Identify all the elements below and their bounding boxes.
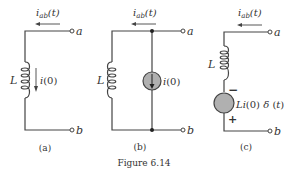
panel-b: iab(t) L i(0) a b (b): [96, 7, 194, 152]
figure-caption: Figure 6.14: [117, 158, 170, 168]
terminal-label-b: b: [76, 124, 83, 137]
wire-top-c: [224, 32, 268, 46]
initial-current-label-a: ii(0)(0): [40, 75, 57, 86]
node-dot-top: [150, 29, 154, 33]
current-label-b: iab(t): [133, 7, 157, 20]
terminal-label-a: a: [274, 26, 281, 39]
wire-bottom-b: [112, 98, 181, 130]
current-arrow-icon: [131, 22, 156, 26]
panel-label-b: (b): [134, 142, 147, 152]
terminal-label-b: b: [187, 124, 194, 137]
current-label-a: iab(t): [36, 7, 60, 20]
inductor-label-a: L: [9, 74, 17, 87]
terminal-a-icon: [181, 29, 185, 33]
wire-top-a: [25, 31, 70, 62]
panel-label-c: (c): [240, 142, 252, 152]
current-arrow-icon: [237, 23, 262, 27]
current-label-c: iab(t): [238, 7, 262, 20]
terminal-label-a: a: [76, 25, 83, 38]
node-dot-bottom: [150, 128, 154, 132]
terminal-b-icon: [70, 128, 74, 132]
wire-bottom-a: [25, 98, 70, 130]
source-label-b: i(0): [163, 76, 180, 87]
terminal-a-icon: [70, 29, 74, 33]
down-arrow-icon: [34, 68, 38, 92]
current-arrow-icon: [35, 22, 60, 26]
terminal-label-a: a: [187, 25, 194, 38]
inductor-label-b: L: [96, 74, 104, 87]
source-label-c: Li(0) δ (t): [235, 99, 284, 110]
panel-c: iab(t) L − Li(0) δ (t) + a b (c): [207, 7, 284, 152]
terminal-b-icon: [268, 129, 272, 133]
panel-label-a: (a): [39, 143, 51, 153]
terminal-a-icon: [268, 30, 272, 34]
polarity-plus: +: [228, 113, 237, 126]
wire-top-b: [112, 31, 181, 62]
voltage-source-icon: [214, 93, 234, 113]
inductor-coil-icon: [21, 62, 29, 98]
panel-a: iab(t) L ii(0)(0) a b (a): [9, 7, 83, 153]
inductor-label-c: L: [207, 58, 215, 71]
inductor-coil-icon: [220, 46, 228, 80]
terminal-label-b: b: [274, 125, 281, 138]
figure-6-14: iab(t) L ii(0)(0) a b (a) iab(t): [0, 0, 289, 173]
inductor-coil-icon: [108, 62, 116, 98]
terminal-b-icon: [181, 128, 185, 132]
